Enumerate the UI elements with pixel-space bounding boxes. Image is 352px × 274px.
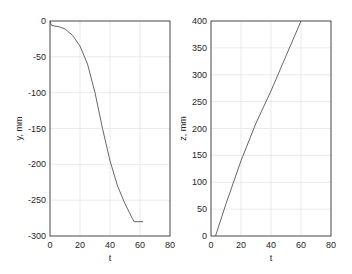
y-tick-label: -250 <box>28 195 46 205</box>
x-tick-label: 40 <box>105 240 115 250</box>
y-tick-label: -100 <box>28 88 46 98</box>
y-tick-label: 250 <box>192 97 207 107</box>
x-tick-label: 80 <box>326 240 336 250</box>
y-tick-label: 100 <box>192 177 207 187</box>
subplot-2: 020406080050100150200250300350400tz, mm <box>178 16 336 263</box>
y-tick-label: 0 <box>202 231 207 241</box>
x-tick-label: 80 <box>165 240 175 250</box>
x-tick-label: 20 <box>236 240 246 250</box>
y-tick-label: 300 <box>192 70 207 80</box>
y-tick-label: 400 <box>192 16 207 26</box>
x-tick-label: 40 <box>266 240 276 250</box>
x-axis-label: t <box>109 253 112 263</box>
x-tick-label: 20 <box>75 240 85 250</box>
y-axis-label: y, mm <box>14 117 24 141</box>
y-tick-label: 150 <box>192 150 207 160</box>
y-tick-label: 200 <box>192 124 207 134</box>
y-tick-label: 0 <box>41 16 46 26</box>
y-tick-label: 350 <box>192 43 207 53</box>
y-tick-label: -200 <box>28 159 46 169</box>
y-axis-label: z, mm <box>178 116 188 141</box>
y-tick-label: -300 <box>28 231 46 241</box>
subplot-1: 0204060800-50-100-150-200-250-300ty, mm <box>14 16 175 263</box>
chart-figure: 0204060800-50-100-150-200-250-300ty, mm0… <box>0 0 352 274</box>
y-tick-label: -50 <box>33 52 46 62</box>
x-tick-label: 0 <box>208 240 213 250</box>
x-axis-label: t <box>270 253 273 263</box>
x-tick-label: 60 <box>296 240 306 250</box>
y-tick-label: 50 <box>197 204 207 214</box>
x-tick-label: 60 <box>135 240 145 250</box>
y-tick-label: -150 <box>28 124 46 134</box>
x-tick-label: 0 <box>47 240 52 250</box>
